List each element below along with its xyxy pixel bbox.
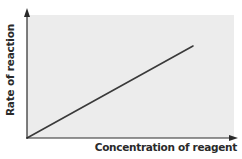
chart [0, 0, 242, 159]
y-axis-arrow-icon [24, 8, 30, 17]
y-axis-label: Rate of reaction [4, 24, 16, 116]
plot-area [27, 15, 234, 138]
x-axis-label: Concentration of reagent [95, 141, 237, 153]
